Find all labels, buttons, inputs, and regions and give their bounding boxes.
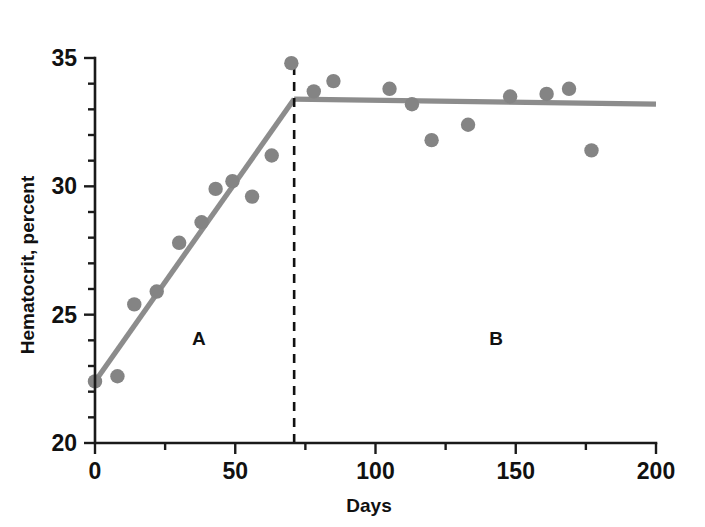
data-point: [194, 215, 208, 229]
data-point: [503, 89, 517, 103]
data-point: [225, 174, 239, 188]
y-tick-label: 30: [51, 173, 77, 199]
data-point: [307, 84, 321, 98]
region-a-label: A: [192, 328, 206, 349]
x-tick-label: 50: [222, 458, 248, 484]
data-point: [424, 133, 438, 147]
data-point: [584, 143, 598, 157]
axes-group: [95, 58, 656, 443]
data-point: [461, 118, 475, 132]
hematocrit-vs-days-scatter-plot: 05010015020020253035 AB Days Hematocrit,…: [0, 0, 705, 527]
x-axis-title: Days: [346, 495, 391, 516]
y-axis-title: Hematocrit, percent: [17, 175, 38, 354]
data-point: [562, 82, 576, 96]
y-tick-label: 25: [51, 302, 77, 328]
data-point: [382, 82, 396, 96]
y-tick-label: 35: [51, 45, 77, 71]
data-point: [265, 148, 279, 162]
x-tick-label: 0: [89, 458, 102, 484]
region-b-label: B: [489, 328, 503, 349]
data-point: [127, 297, 141, 311]
chart-figure: 05010015020020253035 AB Days Hematocrit,…: [0, 0, 705, 527]
data-point-group: [88, 56, 599, 389]
x-tick-label: 200: [637, 458, 675, 484]
x-tick-label: 150: [497, 458, 535, 484]
y-tick-label: 20: [51, 430, 77, 456]
data-point: [405, 97, 419, 111]
annotation-group: AB: [192, 328, 503, 349]
data-point: [208, 182, 222, 196]
data-point: [284, 56, 298, 70]
tick-label-group: 05010015020020253035: [51, 45, 675, 484]
data-point: [326, 74, 340, 88]
data-point: [172, 236, 186, 250]
data-point: [150, 284, 164, 298]
data-point: [539, 87, 553, 101]
x-tick-label: 100: [356, 458, 394, 484]
data-point: [110, 369, 124, 383]
phase-b-plateau: [294, 99, 656, 104]
tick-group: [84, 58, 656, 454]
data-point: [245, 189, 259, 203]
plot-axes-spines: [95, 58, 656, 443]
